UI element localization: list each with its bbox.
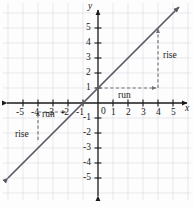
run-lower-label: run [42, 110, 55, 120]
y-tick-label-1: 1 [86, 83, 91, 93]
grid-lines [3, 3, 191, 200]
x-tick-label-5: 5 [171, 108, 176, 118]
coordinate-plane-svg [0, 0, 194, 207]
y-tick-label-2: 2 [86, 68, 91, 78]
run-upper-label: run [118, 91, 131, 101]
y-tick-label-neg3: -3 [83, 143, 91, 153]
y-tick-label-4: 4 [86, 38, 91, 48]
rise-upper-label: rise [163, 51, 177, 61]
x-tick-label-4: 4 [156, 108, 161, 118]
plotted-line [8, 7, 179, 178]
x-tick-label-neg2: -2 [61, 108, 69, 118]
x-axis-label: x [185, 104, 189, 114]
y-tick-label-neg5: -5 [83, 173, 91, 183]
y-tick-label-3: 3 [86, 53, 91, 63]
y-tick-label-neg1: -1 [83, 113, 91, 123]
x-tick-label-1: 1 [111, 108, 116, 118]
rise-lower-label: rise [15, 130, 29, 140]
x-tick-label-neg4: -4 [31, 108, 39, 118]
origin-label: 0 [101, 107, 106, 117]
y-tick-label-neg4: -4 [83, 158, 91, 168]
y-tick-label-neg2: -2 [83, 128, 91, 138]
x-tick-label-3: 3 [141, 108, 146, 118]
y-tick-label-5: 5 [86, 23, 91, 33]
y-axis-label: y [88, 2, 92, 12]
axes [7, 10, 187, 196]
graph-figure: y x 0 -5 -4 -3 -2 -1 1 2 3 4 5 5 4 3 2 1… [0, 0, 194, 207]
x-tick-label-2: 2 [126, 108, 131, 118]
x-tick-label-neg5: -5 [16, 108, 24, 118]
